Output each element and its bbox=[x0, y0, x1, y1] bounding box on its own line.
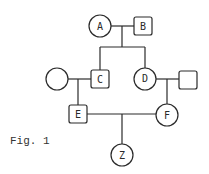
label-z: Z bbox=[119, 150, 125, 161]
individual-e: E bbox=[69, 105, 87, 123]
label-b: B bbox=[140, 21, 146, 32]
individual-c: C bbox=[91, 70, 109, 88]
figure-caption: Fig. 1 bbox=[10, 135, 50, 147]
label-c: C bbox=[97, 74, 103, 85]
pedigree-chart: A B C D E F Z Fig. 1 bbox=[0, 0, 209, 174]
edges bbox=[68, 26, 179, 144]
individual-f: F bbox=[156, 104, 178, 126]
male-symbol bbox=[179, 71, 197, 89]
individual-d: D bbox=[134, 68, 156, 90]
individual-a: A bbox=[89, 15, 111, 37]
individual-c-spouse bbox=[46, 68, 68, 90]
label-d: D bbox=[142, 73, 148, 84]
female-symbol bbox=[46, 68, 68, 90]
individual-d-spouse bbox=[179, 71, 197, 89]
label-a: A bbox=[97, 21, 103, 32]
individual-z: Z bbox=[111, 144, 133, 166]
individual-b: B bbox=[134, 17, 152, 35]
label-e: E bbox=[75, 109, 81, 120]
label-f: F bbox=[164, 110, 170, 121]
